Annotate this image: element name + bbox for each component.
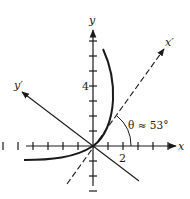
x-prime-axis-label: x′ xyxy=(165,36,174,49)
y-prime-axis xyxy=(22,92,139,181)
x-tick-label-2: 2 xyxy=(119,152,126,165)
y-tick-label-4: 4 xyxy=(82,80,89,93)
x-axis-label: x xyxy=(178,140,185,153)
angle-label: θ ≈ 53° xyxy=(128,119,168,131)
y-axis-label: y xyxy=(88,14,96,27)
curve xyxy=(24,49,113,160)
y-prime-axis-label: y′ xyxy=(13,79,23,92)
rotated-axes-diagram: y x x′ y′ 4 2 θ ≈ 53° xyxy=(0,0,190,199)
